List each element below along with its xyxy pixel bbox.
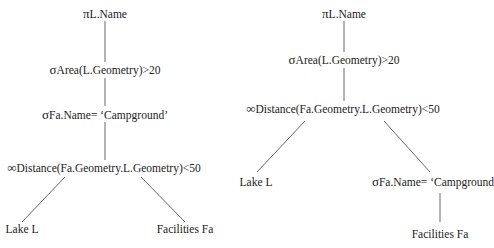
- leaf-lake-right: Lake L: [240, 175, 273, 189]
- edge-join-fac-left: [141, 177, 185, 222]
- select-name-node-right: σFa.Name= ‘Campground: [372, 175, 494, 189]
- select-area-node-left: σArea(L.Geometry)>20: [50, 63, 161, 77]
- edge-join-lake-left: [22, 177, 65, 222]
- projection-node-right: πL.Name: [322, 7, 366, 21]
- select-name-node-left: σFa.Name= ‘Campground’: [42, 108, 168, 122]
- pi-icon: π: [322, 6, 329, 21]
- select-area-node-right: σArea(L.Geometry)>20: [289, 53, 400, 67]
- sigma-icon: σ: [42, 107, 49, 122]
- sigma-icon: σ: [289, 52, 296, 67]
- leaf-facilities-left: Facilities Fa: [157, 222, 214, 236]
- leaf-facilities-right: Facilities Fa: [412, 227, 469, 241]
- sigma-icon: σ: [372, 174, 379, 189]
- projection-node-left: πL.Name: [83, 7, 127, 21]
- sigma-icon: σ: [50, 62, 57, 77]
- edge-join-lake-right: [257, 121, 305, 172]
- edge-join-name-right: [384, 121, 430, 172]
- join-node-left: ∞Distance(Fa.Geometry.L.Geometry)<50: [7, 161, 201, 175]
- pi-icon: π: [83, 6, 90, 21]
- join-icon: ∞: [246, 101, 255, 116]
- join-node-right: ∞Distance(Fa.Geometry.L.Geometry)<50: [246, 102, 440, 116]
- leaf-lake-left: Lake L: [6, 222, 39, 236]
- join-icon: ∞: [7, 160, 16, 175]
